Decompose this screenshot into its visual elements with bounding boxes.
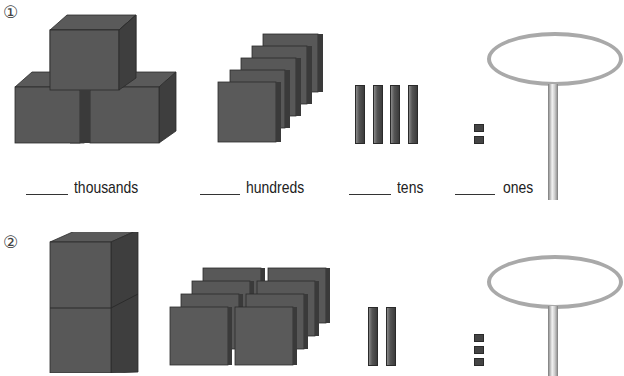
ten-rod-icon — [355, 85, 365, 144]
thousand-cubes-1 — [10, 10, 180, 145]
one-cube-icon — [474, 136, 484, 144]
label-thousands: thousands — [74, 178, 138, 198]
thousand-cubes-2 — [45, 232, 145, 373]
hundred-flat-icon — [218, 82, 281, 142]
ten-rod-icon — [368, 307, 378, 366]
ten-rod-icon — [386, 307, 396, 366]
hoop-pole-icon — [548, 306, 558, 376]
label-ones: ones — [503, 178, 533, 198]
one-cube-icon — [474, 334, 484, 342]
hundred-flats-1 — [215, 30, 330, 150]
hundred-flats-2 — [168, 265, 338, 373]
problem-number-2: ② — [3, 232, 18, 252]
ten-rod-icon — [390, 85, 400, 144]
answer-blank-tens[interactable] — [349, 194, 391, 195]
one-cube-icon — [474, 124, 484, 132]
one-cube-icon — [474, 358, 484, 366]
ten-rod-icon — [408, 85, 418, 144]
ten-rod-icon — [373, 85, 383, 144]
one-cube-icon — [474, 346, 484, 354]
hoop-icon — [487, 255, 623, 309]
answer-blank-ones[interactable] — [455, 194, 495, 195]
answer-blank-hundreds[interactable] — [200, 194, 240, 195]
hoop-icon — [487, 32, 623, 86]
label-tens: tens — [397, 178, 423, 198]
hundred-flat-icon — [235, 307, 297, 365]
hoop-pole-icon — [548, 84, 558, 200]
hundred-flat-icon — [170, 307, 232, 365]
label-hundreds: hundreds — [246, 178, 304, 198]
answer-blank-thousands[interactable] — [26, 194, 68, 195]
